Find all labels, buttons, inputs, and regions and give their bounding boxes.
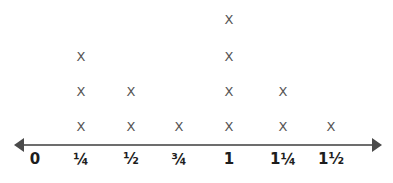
line-plot-chart: XXXXXXXXXXXXX 0¼½¾11¼1½ bbox=[0, 0, 393, 183]
axis-left-arrow-icon bbox=[14, 138, 24, 152]
x-mark: X bbox=[77, 85, 86, 98]
axis-right-arrow-icon bbox=[372, 138, 382, 152]
number-line-axis bbox=[18, 144, 378, 146]
x-mark: X bbox=[327, 120, 336, 133]
x-mark: X bbox=[225, 50, 234, 63]
x-mark: X bbox=[225, 13, 234, 26]
x-mark: X bbox=[279, 85, 288, 98]
x-mark: X bbox=[127, 85, 136, 98]
axis-tick-label: 1 bbox=[224, 152, 234, 167]
axis-tick-label: 1½ bbox=[318, 152, 344, 167]
x-mark: X bbox=[77, 120, 86, 133]
x-mark: X bbox=[279, 120, 288, 133]
x-mark: X bbox=[225, 120, 234, 133]
axis-tick-label: 1¼ bbox=[270, 152, 296, 167]
x-mark: X bbox=[77, 50, 86, 63]
axis-tick-label: ¾ bbox=[171, 152, 187, 167]
axis-tick-label: ¼ bbox=[73, 152, 89, 167]
axis-tick-label: 0 bbox=[30, 152, 40, 167]
x-mark: X bbox=[127, 120, 136, 133]
x-mark: X bbox=[225, 85, 234, 98]
axis-tick-label: ½ bbox=[123, 152, 139, 167]
x-mark: X bbox=[175, 120, 184, 133]
